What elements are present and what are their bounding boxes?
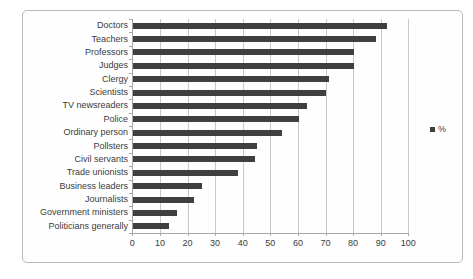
y-axis-tick — [129, 126, 132, 127]
category-label-business-leaders: Business leaders — [23, 181, 128, 192]
category-label-teachers: Teachers — [23, 34, 128, 45]
x-tick-label: 30 — [202, 238, 228, 248]
bar-clergy — [133, 76, 329, 82]
y-axis-tick — [129, 32, 132, 33]
category-label-professors: Professors — [23, 47, 128, 58]
category-label-judges: Judges — [23, 60, 128, 71]
x-tick-label: 90 — [368, 238, 394, 248]
category-label-journalists: Journalists — [23, 194, 128, 205]
bar-business-leaders — [133, 183, 202, 189]
bar-government-ministers — [133, 210, 177, 216]
gridline — [381, 19, 382, 233]
category-label-ordinary-person: Ordinary person — [23, 127, 128, 138]
y-axis-tick — [129, 113, 132, 114]
y-axis-tick — [129, 153, 132, 154]
bar-pollsters — [133, 143, 257, 149]
bar-civil-servants — [133, 156, 254, 162]
x-tick-label: 0 — [119, 238, 145, 248]
y-axis-tick — [129, 180, 132, 181]
x-tick-label: 10 — [147, 238, 173, 248]
y-axis-tick — [129, 19, 132, 20]
category-label-doctors: Doctors — [23, 20, 128, 31]
bar-police — [133, 116, 299, 122]
y-axis-tick — [129, 139, 132, 140]
category-label-tv-newsreaders: TV newsreaders — [23, 100, 128, 111]
y-axis-tick — [129, 99, 132, 100]
bar-journalists — [133, 197, 194, 203]
category-label-pollsters: Pollsters — [23, 141, 128, 152]
y-axis-tick — [129, 46, 132, 47]
category-label-politicians-generally: Politicians generally — [23, 221, 128, 232]
x-tick-label: 60 — [285, 238, 311, 248]
x-axis-line — [132, 233, 409, 234]
category-label-scientists: Scientists — [23, 87, 128, 98]
category-label-government-ministers: Government ministers — [23, 207, 128, 218]
bar-professors — [133, 49, 354, 55]
bar-tv-newsreaders — [133, 103, 307, 109]
x-tick-label: 80 — [340, 238, 366, 248]
category-label-clergy: Clergy — [23, 74, 128, 85]
chart-frame: % 0102030405060708090100DoctorsTeachersP… — [22, 10, 463, 263]
bar-politicians-generally — [133, 223, 169, 229]
legend: % — [430, 124, 446, 134]
x-tick-label: 40 — [230, 238, 256, 248]
y-axis-tick — [129, 220, 132, 221]
category-label-trade-unionists: Trade unionists — [23, 167, 128, 178]
y-axis-tick — [129, 193, 132, 194]
bar-trade-unionists — [133, 170, 238, 176]
y-axis-tick — [129, 233, 132, 234]
x-tick-label: 20 — [175, 238, 201, 248]
bar-doctors — [133, 23, 387, 29]
x-tick-label: 70 — [313, 238, 339, 248]
legend-label: % — [438, 124, 446, 134]
x-tick-label: 50 — [257, 238, 283, 248]
y-axis-tick — [129, 86, 132, 87]
y-axis-tick — [129, 73, 132, 74]
gridline — [408, 19, 409, 233]
y-axis-tick — [129, 166, 132, 167]
bar-scientists — [133, 90, 326, 96]
category-label-civil-servants: Civil servants — [23, 154, 128, 165]
bar-ordinary-person — [133, 130, 282, 136]
bar-judges — [133, 63, 354, 69]
x-tick-label: 100 — [395, 238, 421, 248]
y-axis-tick — [129, 59, 132, 60]
bar-teachers — [133, 36, 376, 42]
y-axis-tick — [129, 206, 132, 207]
category-label-police: Police — [23, 114, 128, 125]
legend-color-swatch — [430, 127, 435, 132]
